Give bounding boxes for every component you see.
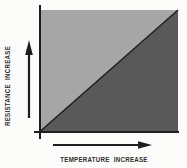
right-arrow-icon <box>53 141 152 149</box>
y-axis-label: RESISTANCE INCREASE <box>4 46 11 126</box>
up-arrow-icon <box>25 40 33 118</box>
plot-area <box>0 0 187 168</box>
x-axis-label: TEMPERATURE INCREASE <box>60 156 147 163</box>
resistance-temperature-figure: RESISTANCE INCREASE TEMPERATURE INCREASE <box>0 0 187 168</box>
